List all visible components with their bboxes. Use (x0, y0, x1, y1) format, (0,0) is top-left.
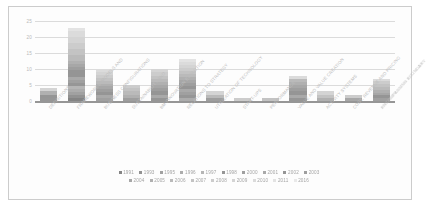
legend-label: 1993 (144, 170, 155, 175)
legend-swatch-icon (150, 179, 153, 182)
legend-item[interactable]: 2010 (253, 178, 268, 183)
x-label-slot: BUSINESS CONFIGURATIONS (90, 103, 118, 165)
legend-swatch-icon (191, 179, 194, 182)
legend-item[interactable]: 2011 (273, 178, 288, 183)
legend-swatch-icon (129, 179, 132, 182)
x-axis-labels: DEFINITIONSFRAMEWORKS, MODELS ANDBUSINES… (35, 103, 395, 165)
legend-label: 1991 (123, 170, 134, 175)
legend-label: 2004 (134, 178, 145, 183)
legend-item[interactable]: 1995 (160, 170, 175, 175)
x-label-slot: DEFINITIONS (35, 103, 63, 165)
legend-swatch-icon (211, 179, 214, 182)
stacked-bar[interactable] (68, 28, 85, 102)
legend-swatch-icon (170, 179, 173, 182)
legend-item[interactable]: 1997 (201, 170, 216, 175)
legend-swatch-icon (294, 179, 297, 182)
legend-swatch-icon (253, 179, 256, 182)
legend-swatch-icon (201, 171, 204, 174)
legend-label: 1996 (185, 170, 196, 175)
legend-swatch-icon (304, 171, 307, 174)
legend-label: 2001 (267, 170, 278, 175)
legend-item[interactable]: 1991 (119, 170, 134, 175)
legend-item[interactable]: 2008 (211, 178, 226, 183)
legend-swatch-icon (283, 171, 286, 174)
legend-row-2: 200420052006200720082009201020112016 (126, 178, 311, 183)
legend-row-1: 1991199319951996199719982000200120022003 (116, 170, 322, 175)
legend-label: 2002 (288, 170, 299, 175)
legend-label: 2000 (247, 170, 258, 175)
legend-item[interactable]: 2000 (242, 170, 257, 175)
legend-label: 2016 (298, 178, 309, 183)
legend-item[interactable]: 2001 (263, 170, 278, 175)
legend-item[interactable]: 2003 (304, 170, 319, 175)
legend-label: 1998 (226, 170, 237, 175)
legend-label: 1997 (206, 170, 217, 175)
legend-label: 2007 (195, 178, 206, 183)
y-axis-tick-label: 15 (26, 51, 32, 56)
legend-label: 2009 (237, 178, 248, 183)
legend-label: 2003 (309, 170, 320, 175)
x-label-slot: ACTIVITY SYSTEMS (312, 103, 340, 165)
x-label-slot: COST, REVENUE AND PRICING (340, 103, 368, 165)
legend-label: 2010 (257, 178, 268, 183)
chart-legend: 1991199319951996199719982000200120022003… (17, 170, 421, 183)
x-label-slot: VALUE AND VALUE CREATION (284, 103, 312, 165)
y-axis-tick-label: 5 (29, 83, 32, 88)
legend-item[interactable]: 2006 (170, 178, 185, 183)
legend-label: 2011 (278, 178, 288, 183)
legend-label: 2008 (216, 178, 227, 183)
legend-swatch-icon (242, 171, 245, 174)
legend-swatch-icon (263, 171, 266, 174)
x-label-slot: RELATIONS TO STRATEGY (173, 103, 201, 165)
legend-swatch-icon (222, 171, 225, 174)
y-axis-tick-label: 0 (29, 99, 32, 104)
y-axis-tick-label: 20 (26, 35, 32, 40)
legend-item[interactable]: 2002 (283, 170, 298, 175)
legend-swatch-icon (139, 171, 142, 174)
legend-item[interactable]: 1998 (222, 170, 237, 175)
legend-item[interactable]: 1993 (139, 170, 154, 175)
x-label-slot: START-UPS (229, 103, 257, 165)
legend-swatch-icon (160, 171, 163, 174)
x-label-slot: UTILIZATION OF TECHNOLOGY (201, 103, 229, 165)
x-label-slot: BM INNOVATION EVOLUTION (146, 103, 174, 165)
chart-frame: 0510152025 DEFINITIONSFRAMEWORKS, MODELS… (8, 6, 412, 200)
legend-item[interactable]: 2004 (129, 178, 144, 183)
legend-swatch-icon (180, 171, 183, 174)
legend-item[interactable]: 2007 (191, 178, 206, 183)
legend-label: 1995 (164, 170, 175, 175)
legend-swatch-icon (232, 179, 235, 182)
x-label-slot: ENCOMPASSING BOUNDARY (367, 103, 395, 165)
bar-slot[interactable] (35, 21, 63, 101)
legend-label: 2006 (175, 178, 186, 183)
legend-label: 2005 (154, 178, 165, 183)
y-axis-tick-label: 25 (26, 19, 32, 24)
x-label-slot: SUSTAINABILITY AND (118, 103, 146, 165)
legend-item[interactable]: 2005 (150, 178, 165, 183)
legend-swatch-icon (273, 179, 276, 182)
legend-swatch-icon (119, 171, 122, 174)
y-axis-tick-label: 10 (26, 67, 32, 72)
legend-item[interactable]: 1996 (180, 170, 195, 175)
legend-item[interactable]: 2009 (232, 178, 247, 183)
legend-item[interactable]: 2016 (294, 178, 309, 183)
x-label-slot: FRAMEWORKS, MODELS AND (63, 103, 91, 165)
x-label-slot: PERFORMANCE (257, 103, 285, 165)
